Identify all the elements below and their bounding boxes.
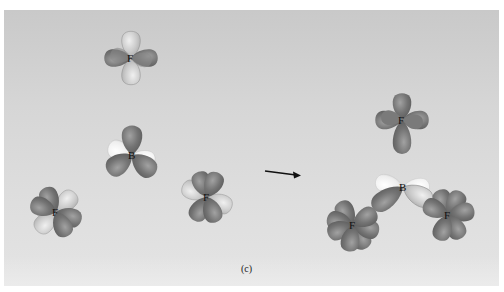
- atom-label-f: F: [127, 52, 133, 64]
- atom-label-f: F: [349, 219, 355, 231]
- atom-label-b: B: [128, 149, 135, 161]
- atom-label-f: F: [203, 191, 209, 203]
- atom-label-b: B: [399, 181, 406, 193]
- bf3-molecule: F F F: [325, 93, 476, 253]
- fluorine-product-top: F: [375, 93, 429, 154]
- fluorine-atom-right: F: [179, 169, 235, 226]
- fluorine-atom-left: F: [28, 184, 85, 240]
- atom-label-f: F: [52, 206, 58, 218]
- orbital-diagram: F B F F: [0, 0, 504, 292]
- atom-label-f: F: [444, 209, 450, 221]
- fluorine-atom-top: F: [104, 31, 158, 85]
- atom-label-f: F: [398, 114, 404, 126]
- figure-caption: (c): [241, 263, 252, 274]
- reaction-arrow: [265, 171, 301, 179]
- boron-atom: B: [102, 126, 161, 182]
